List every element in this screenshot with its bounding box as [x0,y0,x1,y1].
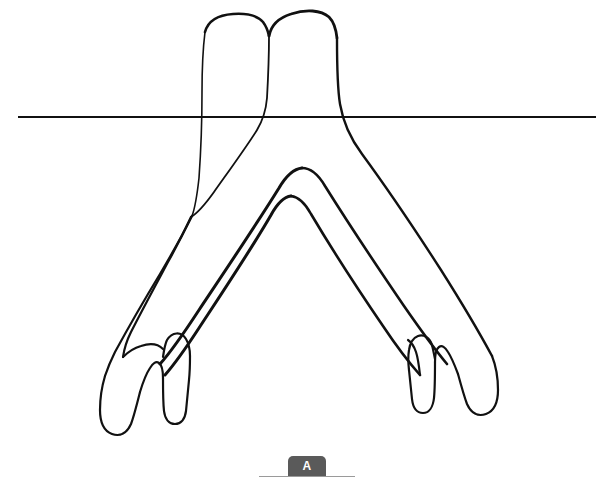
figure-label-rule [259,476,355,477]
figure-drawing [0,0,610,485]
figure-label-badge: A [288,456,325,476]
figure-label-group: A [0,447,610,477]
page-background [0,0,610,485]
